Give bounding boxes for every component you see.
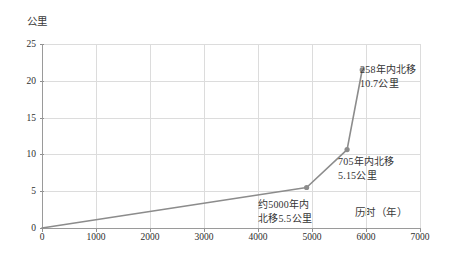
annotation-line-2: 5.15公里 xyxy=(338,169,394,183)
y-axis-title: 公里 xyxy=(27,13,48,28)
x-tick-label: 6000 xyxy=(357,232,376,242)
x-tick-label: 4000 xyxy=(249,232,268,242)
y-tick-label: 10 xyxy=(27,149,37,159)
x-tick-label: 3000 xyxy=(195,232,214,242)
annotation-line-1: 258年内北移 xyxy=(360,63,416,77)
series-line xyxy=(42,70,362,228)
y-tick-label: 0 xyxy=(31,223,36,233)
x-tick-label: 1000 xyxy=(87,232,106,242)
y-tick-label: 25 xyxy=(27,39,37,49)
annotation-first-segment: 约5000年内 北移5.5公里 xyxy=(258,198,312,225)
annotation-line-1: 约5000年内 xyxy=(258,198,312,212)
x-tick-label: 0 xyxy=(40,232,45,242)
annotation-line-2: 北移5.5公里 xyxy=(258,212,312,226)
annotation-line-1: 705年内北移 xyxy=(338,155,394,169)
data-point-marker xyxy=(345,147,350,152)
data-point-marker xyxy=(304,185,309,190)
x-tick-label: 5000 xyxy=(303,232,322,242)
y-tick-label: 20 xyxy=(27,76,37,86)
annotation-second-segment: 705年内北移 5.15公里 xyxy=(338,155,394,182)
x-tick-label: 7000 xyxy=(411,232,430,242)
chart-figure: 公里 历时（年） 0510152025010002000300040005000… xyxy=(0,0,452,260)
y-tick-label: 5 xyxy=(31,186,36,196)
x-tick-label: 2000 xyxy=(141,232,160,242)
annotation-third-segment: 258年内北移 10.7公里 xyxy=(360,63,416,90)
gridline-vertical xyxy=(420,44,421,228)
y-tick-label: 15 xyxy=(27,113,37,123)
annotation-line-2: 10.7公里 xyxy=(360,77,416,91)
